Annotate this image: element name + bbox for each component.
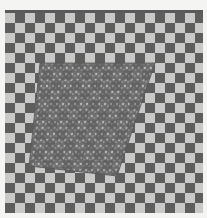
warped-textured-patch — [0, 0, 207, 218]
checkerboard-image: Grayscale checkerboard with a perspectiv… — [0, 0, 207, 218]
